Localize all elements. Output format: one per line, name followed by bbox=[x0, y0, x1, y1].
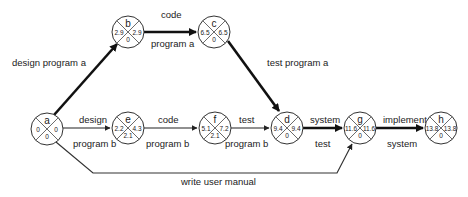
node-f-earliest: 5.1 bbox=[201, 125, 210, 132]
edge-a-b bbox=[54, 44, 117, 115]
label-program-b-2: program b bbox=[146, 138, 189, 149]
edge-c-d bbox=[228, 41, 279, 111]
node-h: h 13.8 13.8 0 bbox=[425, 112, 457, 144]
node-g-latest: 11.6 bbox=[363, 125, 376, 132]
label-program-a: program a bbox=[151, 38, 195, 49]
node-f: f 5.1 7.2 2.1 bbox=[199, 112, 231, 144]
node-h-latest: 13.8 bbox=[444, 125, 457, 132]
label-system: system bbox=[310, 114, 340, 125]
label-code-a: code bbox=[161, 9, 182, 20]
node-c-earliest: 6.5 bbox=[200, 29, 209, 36]
node-g-slack: 0 bbox=[358, 132, 362, 139]
node-c-latest: 6.5 bbox=[218, 29, 227, 36]
label-program-b-3: program b bbox=[225, 138, 268, 149]
node-d: d 9.4 9.4 0 bbox=[271, 112, 303, 144]
node-b-id: b bbox=[125, 18, 131, 29]
node-a-earliest: 0 bbox=[36, 126, 40, 133]
label-code-b: code bbox=[158, 114, 179, 125]
node-h-slack: 0 bbox=[439, 132, 443, 139]
label-implement: implement bbox=[383, 114, 427, 125]
node-e-slack: 2.1 bbox=[123, 132, 132, 139]
network-diagram: design program a code program a test pro… bbox=[0, 0, 468, 197]
label-write-user-manual: write user manual bbox=[180, 176, 256, 187]
label-program-b-1: program b bbox=[73, 138, 116, 149]
node-h-id: h bbox=[438, 114, 444, 125]
node-a-slack: 0 bbox=[45, 133, 49, 140]
node-f-id: f bbox=[214, 114, 217, 125]
edges bbox=[54, 32, 423, 173]
node-e: e 2.2 4.3 2.1 bbox=[112, 112, 144, 144]
node-b-earliest: 2.9 bbox=[114, 29, 123, 36]
node-c-slack: 0 bbox=[212, 36, 216, 43]
node-d-earliest: 9.4 bbox=[273, 125, 282, 132]
node-c: c 6.5 6.5 0 bbox=[198, 16, 230, 48]
label-test-system: test bbox=[315, 138, 331, 149]
node-f-latest: 7.2 bbox=[219, 125, 228, 132]
node-g-id: g bbox=[357, 114, 363, 125]
node-b-slack: 0 bbox=[126, 36, 130, 43]
node-e-id: e bbox=[125, 114, 131, 125]
node-b-latest: 2.9 bbox=[132, 29, 141, 36]
node-b: b 2.9 2.9 0 bbox=[112, 16, 144, 48]
node-e-earliest: 2.2 bbox=[114, 125, 123, 132]
node-a: a 0 0 0 bbox=[31, 113, 63, 145]
node-g-earliest: 11.6 bbox=[345, 125, 358, 132]
node-c-id: c bbox=[212, 18, 217, 29]
label-design-program-a: design program a bbox=[12, 57, 87, 68]
node-d-slack: 0 bbox=[285, 132, 289, 139]
node-a-latest: 0 bbox=[54, 126, 58, 133]
node-a-id: a bbox=[44, 115, 50, 126]
node-h-earliest: 13.8 bbox=[426, 125, 439, 132]
node-g: g 11.6 11.6 0 bbox=[344, 112, 376, 144]
label-system-impl: system bbox=[387, 138, 417, 149]
node-d-latest: 9.4 bbox=[291, 125, 300, 132]
node-d-id: d bbox=[284, 114, 290, 125]
label-test-b: test bbox=[239, 114, 255, 125]
label-test-program-a: test program a bbox=[267, 57, 329, 68]
node-e-latest: 4.3 bbox=[132, 125, 141, 132]
label-design-b: design bbox=[79, 114, 107, 125]
node-f-slack: 2.1 bbox=[210, 132, 219, 139]
